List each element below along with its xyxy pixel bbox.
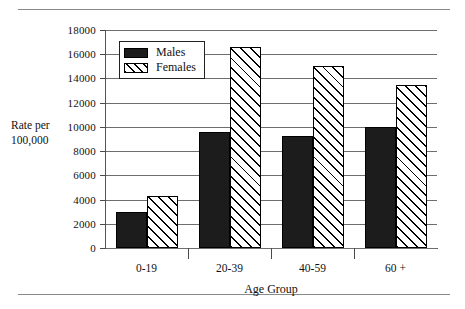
x-axis-separator-tick [271, 248, 272, 259]
bar-males-20to39 [199, 132, 230, 248]
x-axis-separator-tick [188, 248, 189, 259]
y-axis-tick-label: 10000 [68, 121, 97, 133]
bar-females-40to59 [313, 66, 344, 248]
bar-females-60 [396, 85, 427, 249]
y-axis-title-line2: 100,000 [11, 133, 83, 148]
y-axis-tick [100, 175, 106, 176]
y-axis-tick [100, 127, 106, 128]
legend-item-males: Males [124, 45, 196, 60]
y-axis-line [105, 30, 106, 249]
legend-label-females: Females [156, 60, 196, 75]
plot-area: 0200040006000800010000120001400016000180… [105, 30, 437, 248]
top-divider-rule [18, 9, 450, 10]
chart-legend: Males Females [119, 41, 205, 79]
legend-swatch-males-icon [124, 48, 148, 58]
gridline [105, 103, 437, 104]
y-axis-tick-label: 4000 [73, 194, 96, 206]
y-axis-tick [100, 30, 106, 31]
y-axis-tick-label: 18000 [68, 24, 97, 36]
y-axis-tick [100, 103, 106, 104]
bar-males-60 [365, 127, 396, 248]
y-axis-tick [100, 224, 106, 225]
y-axis-tick-label: 6000 [73, 169, 96, 181]
y-axis-tick-label: 2000 [73, 218, 96, 230]
x-axis-tick-label: 0-19 [136, 262, 157, 274]
legend-item-females: Females [124, 60, 196, 75]
y-axis-tick [100, 151, 106, 152]
x-axis-title: Age Group [105, 282, 437, 297]
y-axis-tick-label: 12000 [68, 97, 97, 109]
y-axis-tick [100, 200, 106, 201]
x-axis-tick-label: 40-59 [299, 262, 326, 274]
gridline [105, 30, 437, 31]
bar-females-0to19 [147, 196, 178, 248]
bar-males-0to19 [116, 212, 147, 248]
legend-label-males: Males [156, 45, 185, 60]
y-axis-tick-label: 8000 [73, 145, 96, 157]
y-axis-tick-label: 16000 [68, 48, 97, 60]
y-axis-tick [100, 54, 106, 55]
bar-males-40to59 [282, 136, 313, 248]
y-axis-tick-label: 0 [90, 242, 96, 254]
bar-females-20to39 [230, 47, 261, 248]
y-axis-tick [100, 78, 106, 79]
x-axis-separator-tick [354, 248, 355, 259]
chart-figure: Rate per 100,000 02000400060008000100001… [0, 0, 465, 309]
legend-swatch-females-icon [124, 63, 148, 73]
y-axis-tick [100, 248, 106, 249]
y-axis-tick-label: 14000 [68, 72, 97, 84]
x-axis-tick-label: 20-39 [216, 262, 243, 274]
x-axis-tick-label: 60 + [385, 262, 406, 274]
